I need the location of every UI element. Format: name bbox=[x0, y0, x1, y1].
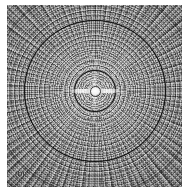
figure-panel-b: 40 dB 20 dB (b) bbox=[0, 0, 184, 189]
focal-ring-icon bbox=[90, 86, 101, 97]
contour-label-20db: 20 dB bbox=[87, 140, 103, 146]
contour-label-40db: 40 dB bbox=[87, 117, 103, 123]
contour-plot-panel: 40 dB 20 dB (b) bbox=[7, 5, 182, 187]
panel-tag-b: (b) bbox=[15, 169, 25, 178]
